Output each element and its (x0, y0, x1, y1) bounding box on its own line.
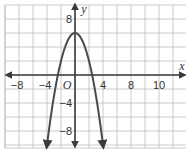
coordinate-plane: −8−448108−4−8Oxy (0, 0, 191, 159)
x-tick-label: 8 (128, 79, 134, 91)
y-tick-label: −8 (59, 125, 72, 137)
x-tick-label: 4 (100, 79, 106, 91)
y-tick-label: 8 (66, 13, 72, 25)
x-tick-label: −8 (11, 79, 24, 91)
x-tick-label: −4 (39, 79, 52, 91)
grid-lines (5, 5, 186, 148)
x-tick-label: 10 (153, 79, 165, 91)
x-axis-label: x (178, 59, 185, 73)
origin-label: O (63, 78, 72, 92)
y-axis-label: y (80, 2, 87, 16)
y-tick-label: −4 (59, 97, 72, 109)
